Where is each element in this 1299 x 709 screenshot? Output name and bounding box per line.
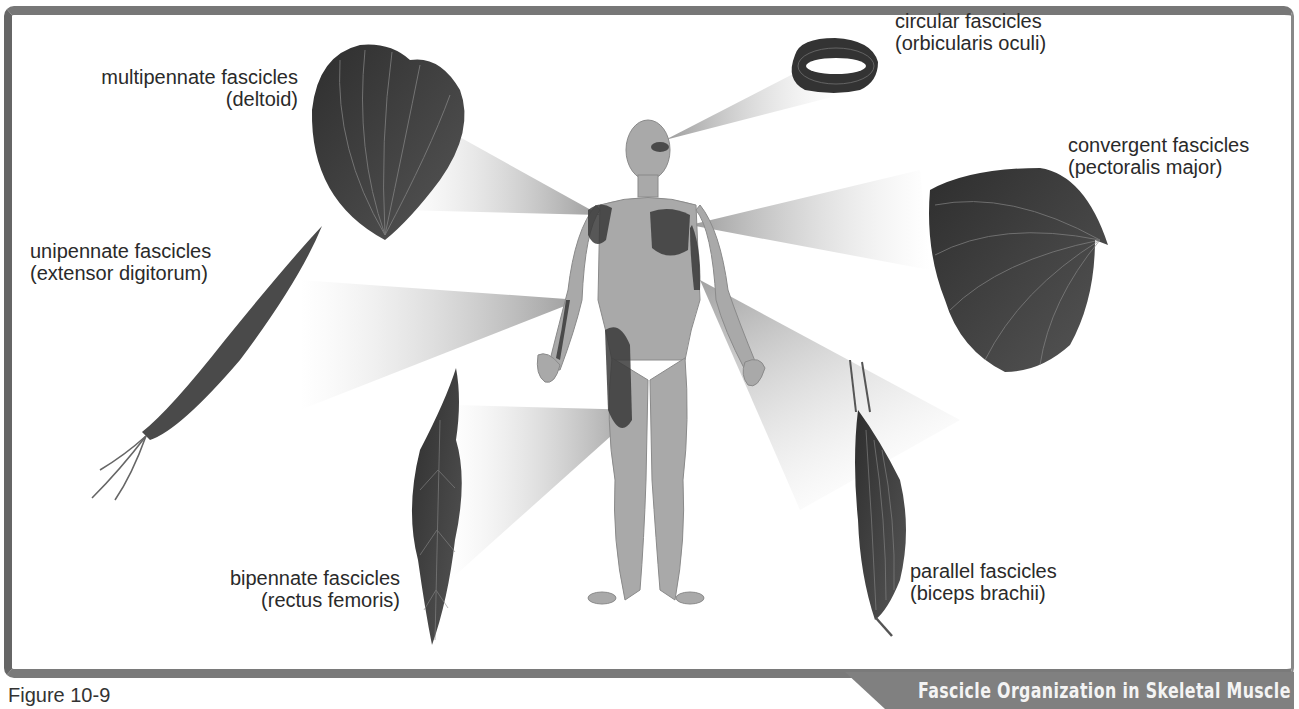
- highlight-orbicularis: [651, 142, 669, 152]
- beam-biceps: [700, 280, 960, 510]
- pectoralis-specimen: [929, 168, 1108, 372]
- human-figure: [537, 120, 765, 604]
- label-parallel: parallel fascicles (biceps brachii): [910, 560, 1057, 604]
- label-unipennate-example: (extensor digitorum): [30, 262, 211, 284]
- label-unipennate-type: unipennate fascicles: [30, 240, 211, 262]
- left-foot: [676, 592, 704, 604]
- label-circular: circular fascicles (orbicularis oculi): [895, 10, 1046, 54]
- label-convergent-example: (pectoralis major): [1068, 156, 1249, 178]
- figure-number: Figure 10-9: [8, 684, 110, 707]
- figure-title: Fascicle Organization in Skeletal Muscle: [918, 678, 1291, 703]
- label-circular-example: (orbicularis oculi): [895, 32, 1046, 54]
- label-multipennate: multipennate fascicles (deltoid): [58, 66, 298, 110]
- label-convergent: convergent fascicles (pectoralis major): [1068, 134, 1249, 178]
- label-bipennate-example: (rectus femoris): [160, 589, 400, 611]
- highlight-pectoralis: [650, 209, 690, 255]
- neck: [638, 175, 658, 197]
- label-bipennate: bipennate fascicles (rectus femoris): [160, 567, 400, 611]
- beam-extensor: [300, 280, 580, 410]
- label-circular-type: circular fascicles: [895, 10, 1046, 32]
- label-bipennate-type: bipennate fascicles: [160, 567, 400, 589]
- left-leg: [650, 358, 687, 600]
- label-multipennate-example: (deltoid): [58, 88, 298, 110]
- label-unipennate: unipennate fascicles (extensor digitorum…: [30, 240, 211, 284]
- orbicularis-specimen: [792, 38, 878, 93]
- label-convergent-type: convergent fascicles: [1068, 134, 1249, 156]
- right-foot: [588, 592, 616, 604]
- label-parallel-example: (biceps brachii): [910, 582, 1057, 604]
- label-multipennate-type: multipennate fascicles: [58, 66, 298, 88]
- beam-pectoralis: [690, 170, 930, 270]
- label-parallel-type: parallel fascicles: [910, 560, 1057, 582]
- rectus-femoris-specimen: [412, 368, 462, 645]
